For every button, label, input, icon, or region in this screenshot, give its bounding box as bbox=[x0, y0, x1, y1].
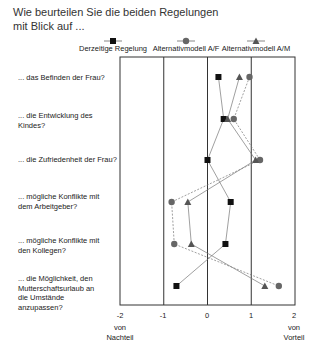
triangle-marker bbox=[261, 283, 268, 290]
square-marker bbox=[222, 241, 228, 247]
circle-marker bbox=[276, 283, 282, 289]
square-marker bbox=[173, 283, 179, 289]
circle-marker bbox=[231, 116, 237, 122]
square-marker bbox=[228, 199, 234, 205]
circle-marker bbox=[171, 241, 177, 247]
triangle-marker bbox=[184, 199, 191, 206]
square-marker bbox=[215, 74, 221, 80]
legend-circle-icon bbox=[183, 38, 189, 44]
circle-marker bbox=[246, 74, 252, 80]
legend-square-icon bbox=[110, 38, 116, 44]
triangle-marker bbox=[188, 241, 195, 248]
series-line-triangle bbox=[188, 77, 265, 286]
square-marker bbox=[205, 157, 211, 163]
chart-plot bbox=[0, 0, 316, 352]
series-line-circle bbox=[172, 77, 279, 286]
triangle-marker bbox=[236, 74, 243, 81]
series-line-square bbox=[176, 77, 230, 286]
circle-marker bbox=[168, 199, 174, 205]
